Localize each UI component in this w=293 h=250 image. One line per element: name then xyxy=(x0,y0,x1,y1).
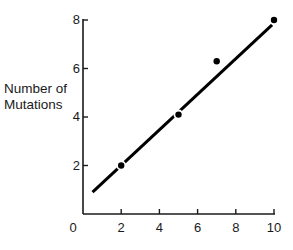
y-tick-label: 6 xyxy=(60,62,80,76)
y-tick-label: 2 xyxy=(60,159,80,173)
data-point xyxy=(271,17,277,23)
x-tick-label: 4 xyxy=(149,221,169,235)
y-axis-title-line-2: Mutations xyxy=(4,97,67,113)
data-point xyxy=(214,58,220,64)
data-point xyxy=(118,162,124,168)
y-axis-title: Number of Mutations xyxy=(4,81,67,113)
x-tick-label: 2 xyxy=(111,221,131,235)
y-axis-title-line-1: Number of xyxy=(4,81,67,97)
figure-caption-cutoff xyxy=(0,246,293,250)
x-tick-label: 6 xyxy=(188,221,208,235)
y-tick-label: 4 xyxy=(60,110,80,124)
data-point xyxy=(175,111,181,117)
x-tick-label: 8 xyxy=(226,221,246,235)
x-tick-label: 10 xyxy=(264,221,284,235)
x-tick-label: 0 xyxy=(63,221,83,235)
y-tick-label: 8 xyxy=(60,13,80,27)
scatter-chart: Number of Mutations 0246810 2468 xyxy=(0,0,293,250)
plot-area xyxy=(0,0,293,250)
